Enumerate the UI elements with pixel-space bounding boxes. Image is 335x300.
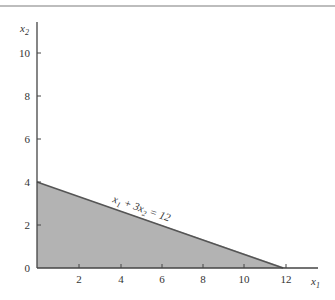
- x-tick-label: 6: [159, 273, 165, 285]
- y-tick-label: 4: [25, 176, 31, 188]
- y-axis-label: x2: [19, 22, 29, 37]
- chart: 0 2 4 6 8 10 2 4 6 8 10 12 x2 x1 x1 + 3x…: [0, 0, 335, 300]
- x-axis-label: x1: [310, 275, 320, 290]
- y-tick-label: 0: [25, 262, 31, 274]
- y-tick-label: 8: [25, 90, 31, 102]
- x-tick-label: 2: [76, 273, 82, 285]
- x-tick-label: 12: [281, 273, 292, 285]
- x-tick-label: 10: [239, 273, 251, 285]
- y-tick-label: 10: [19, 47, 31, 59]
- x-tick-label: 8: [200, 273, 206, 285]
- x-tick-label: 4: [118, 273, 124, 285]
- y-tick-label: 6: [25, 133, 31, 145]
- y-tick-label: 2: [25, 219, 31, 231]
